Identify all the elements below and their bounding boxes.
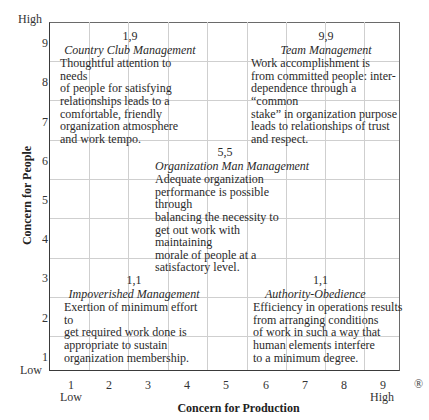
style-name: Country Club Management [60, 44, 200, 57]
x-tick: 3 [142, 379, 154, 391]
style-team: 9,9 Team Management Work accomplishment … [251, 30, 401, 145]
x-tick: 7 [299, 379, 311, 391]
x-tick: 8 [338, 379, 350, 391]
style-organization-man: 5,5 Organization Man Management Adequate… [155, 146, 295, 274]
y-tick: 4 [38, 233, 48, 245]
style-description: Adequate organization performance is pos… [155, 173, 295, 274]
style-name: Authority-Obedience [253, 288, 403, 301]
style-coordinate: 9,9 [251, 30, 401, 43]
style-coordinate: 1,1 [253, 274, 403, 287]
y-axis-title: Concern for People [20, 141, 35, 251]
y-tick: 3 [38, 272, 48, 284]
style-country-club: 1,9 Country Club Management Thoughtful a… [60, 30, 200, 145]
style-coordinate: 1,1 [64, 274, 204, 287]
style-description: Efficiency in operations results from ar… [253, 301, 403, 364]
y-axis-high-label: High [18, 13, 42, 25]
style-name: Impoverished Management [64, 288, 204, 301]
x-tick: 6 [260, 379, 272, 391]
x-tick: 5 [220, 379, 232, 391]
style-description: Exertion of minimum effort to get requir… [64, 301, 204, 364]
x-tick: 4 [181, 379, 193, 391]
style-authority-obedience: 1,1 Authority-Obedience Efficiency in op… [253, 274, 403, 364]
y-tick: 9 [38, 37, 48, 49]
y-tick: 8 [38, 76, 48, 88]
style-impoverished: 1,1 Impoverished Management Exertion of … [64, 274, 204, 364]
style-description: Work accomplishment is from committed pe… [251, 57, 401, 145]
y-tick: 6 [38, 155, 48, 167]
x-tick: 2 [103, 379, 115, 391]
y-tick: 7 [38, 116, 48, 128]
registered-mark: ® [414, 377, 423, 392]
x-axis-title: Concern for Production [0, 401, 429, 416]
style-description: Thoughtful attention to needs of people … [60, 57, 200, 145]
y-tick: 1 [38, 351, 48, 363]
y-axis-low-label: Low [20, 364, 42, 376]
style-coordinate: 1,9 [60, 30, 200, 43]
style-name: Organization Man Management [155, 160, 295, 173]
y-tick: 5 [38, 194, 48, 206]
y-tick: 2 [38, 312, 48, 324]
style-name: Team Management [251, 44, 401, 57]
style-coordinate: 5,5 [155, 146, 295, 159]
